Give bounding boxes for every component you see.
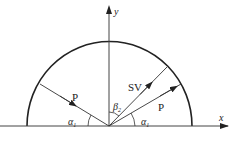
svg-text:β2: β2 (112, 101, 121, 113)
label-p-outgoing: P (158, 101, 164, 113)
ray-sv-outgoing (109, 67, 167, 126)
label-alpha1-left: α1 (68, 116, 76, 128)
label-p-incoming: P (72, 91, 78, 103)
x-axis-label: x (218, 112, 224, 123)
label-alpha1-right: α1 (141, 116, 149, 128)
angle-arc-alpha1-left (88, 115, 91, 126)
ray-p-outgoing-arrow-icon (160, 86, 177, 96)
x-axis-arrow-icon (220, 123, 229, 129)
label-beta2: β2 (112, 101, 121, 113)
label-sv: SV (128, 81, 142, 93)
svg-text:α1: α1 (141, 116, 149, 128)
reflection-diagram: y x P SV P α1 β2 α1 (0, 0, 234, 141)
angle-arc-alpha1-right (131, 113, 135, 126)
svg-text:α1: α1 (68, 116, 76, 128)
y-axis-label: y (113, 6, 119, 17)
y-axis-arrow-icon (106, 5, 112, 14)
